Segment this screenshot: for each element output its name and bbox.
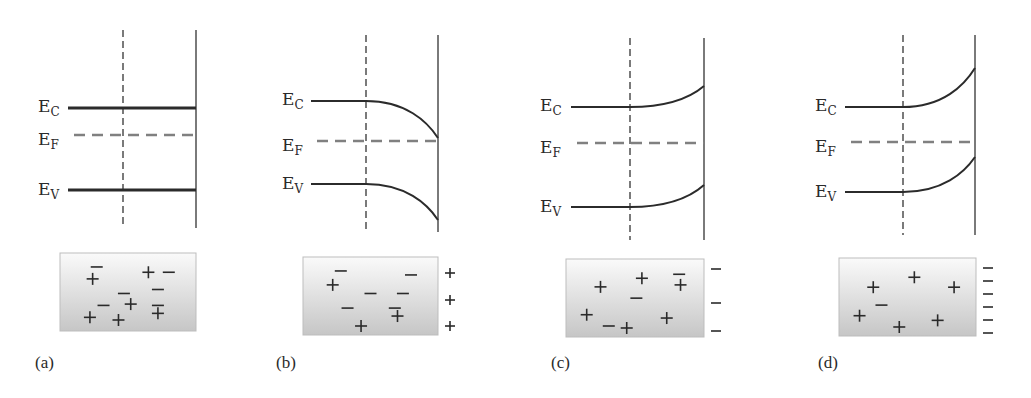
charge-region-box — [60, 253, 196, 331]
panel-d: ECEFEV(d) — [815, 35, 993, 372]
valence-band-edge — [845, 157, 975, 192]
panel-label-a: (a) — [35, 353, 54, 372]
panel-label-d: (d) — [818, 353, 838, 372]
charge-region-box — [303, 257, 438, 335]
label-ef: EF — [540, 137, 561, 160]
label-ec: EC — [282, 89, 304, 112]
label-ec: EC — [540, 95, 562, 118]
label-ef: EF — [815, 136, 836, 159]
panel-label-b: (b) — [276, 353, 296, 372]
valence-band-edge — [571, 185, 704, 207]
charge-region-box — [839, 258, 976, 336]
panel-c: ECEFEV(c) — [540, 38, 721, 372]
panel-a: ECEFEV(a) — [35, 30, 196, 372]
label-ef: EF — [282, 135, 303, 158]
band-diagram-figure: ECEFEV(a)ECEFEV(b)ECEFEV(c)ECEFEV(d) — [0, 0, 1031, 398]
label-ev: EV — [815, 181, 836, 204]
panel-label-c: (c) — [551, 353, 570, 372]
conduction-band-edge — [571, 86, 704, 107]
label-ev: EV — [38, 179, 59, 202]
label-ef: EF — [38, 129, 59, 152]
panel-b: ECEFEV(b) — [276, 35, 455, 372]
label-ec: EC — [38, 96, 60, 119]
conduction-band-edge — [311, 101, 438, 138]
valence-band-edge — [311, 184, 438, 220]
label-ev: EV — [540, 196, 561, 219]
label-ec: EC — [815, 95, 837, 118]
conduction-band-edge — [845, 68, 975, 107]
label-ev: EV — [282, 173, 303, 196]
